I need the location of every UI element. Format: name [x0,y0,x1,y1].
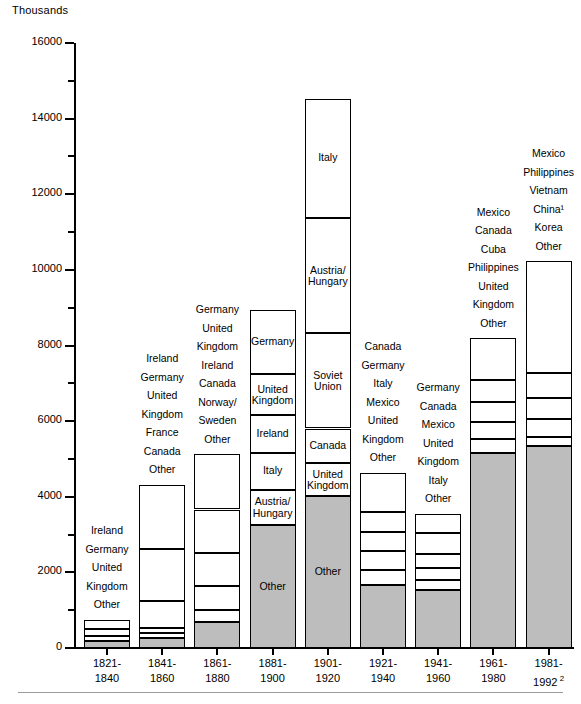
stacked-bar[interactable] [139,485,185,648]
bar-segment[interactable] [470,422,516,439]
bar-outside-label: Italy [402,471,474,490]
x-tick [106,649,108,655]
bar-segment[interactable] [470,453,516,648]
bar-segment[interactable]: Other [250,525,296,648]
x-tick [382,649,384,655]
bar-segment[interactable]: Italy [305,99,351,218]
y-tick-label: 4000 [8,490,62,501]
y-tick-major [65,647,74,649]
bar-outside-label-group: MexicoPhilippinesVietnamChina¹KoreaOther [513,144,581,255]
bar-segment[interactable]: Germany [250,310,296,374]
bar-segment[interactable] [470,380,516,402]
bar-segment[interactable] [415,533,461,554]
bar-segment-label: Germany [251,336,295,348]
stacked-bar[interactable] [470,338,516,648]
bar-segment-label: Austria/ Hungary [251,496,295,519]
bar-segment[interactable] [139,485,185,549]
bar-segment[interactable] [526,373,572,398]
bar-segment[interactable] [139,549,185,601]
bar-segment[interactable] [470,439,516,452]
bar-segment[interactable] [139,633,185,638]
x-category-label: 1941-1960 [411,656,466,686]
bar-outside-label: United Kingdom [402,434,474,471]
x-category-label: 1921-1940 [355,656,410,686]
bar-segment[interactable] [415,580,461,589]
bar-segment[interactable] [526,419,572,437]
stacked-bar[interactable] [526,261,572,648]
bar-segment[interactable] [84,636,130,642]
bar-outside-label: Other [513,237,581,256]
bar-segment[interactable] [360,473,406,512]
bar-outside-label: Mexico [402,415,474,434]
bar-segment-label: Italy [306,152,350,164]
y-tick-label: 14000 [8,112,62,123]
bar-outside-label: Philippines [513,163,581,182]
bar-segment[interactable] [415,568,461,581]
bar-segment[interactable]: Ireland [250,415,296,453]
y-tick-major [65,42,74,44]
bar-segment[interactable]: Austria/ Hungary [305,218,351,333]
bar-segment[interactable] [194,553,240,586]
y-tick-major [65,193,74,195]
bar-outside-label: Ireland [71,521,143,540]
bar-segment[interactable] [194,586,240,610]
y-tick-label: 10000 [8,263,62,274]
bar-segment[interactable] [194,454,240,509]
bar-segment[interactable] [526,446,572,648]
bar-segment[interactable] [84,620,130,630]
y-tick-label: 0 [8,641,62,652]
bar-segment[interactable] [360,532,406,552]
bar-segment[interactable] [139,638,185,648]
x-category-label: 1981-1992 2 [521,656,576,690]
y-tick-major [65,269,74,271]
bar-outside-label-group: IrelandGermanyUnited KingdomOther [71,521,143,614]
bar-segment[interactable] [470,402,516,422]
x-tick [437,649,439,655]
bar-outside-label: Other [457,314,529,333]
bar-segment-label: Ireland [251,429,295,441]
bar-segment[interactable] [360,551,406,569]
bar-segment[interactable] [84,629,130,635]
bar-segment[interactable] [84,641,130,648]
bar-segment[interactable] [194,622,240,648]
bar-segment[interactable]: Soviet Union [305,333,351,428]
stacked-bar[interactable] [194,454,240,648]
bar-segment[interactable] [470,338,516,379]
bar-segment-label: United Kingdom [306,468,350,491]
bar-segment[interactable] [139,628,185,634]
bar-outside-label: Mexico [513,144,581,163]
bar-outside-label: United Kingdom [181,319,253,356]
bar-segment[interactable] [194,610,240,622]
bar-segment[interactable] [194,510,240,554]
stacked-bar[interactable] [360,473,406,648]
bar-outside-label: Vietnam [513,181,581,200]
bar-segment[interactable] [526,261,572,373]
bar-segment[interactable]: Austria/ Hungary [250,490,296,526]
stacked-bar[interactable] [84,620,130,648]
bar-segment[interactable]: United Kingdom [305,463,351,496]
bar-segment[interactable] [360,585,406,648]
bar-segment[interactable]: Other [305,496,351,648]
stacked-bar[interactable]: OtherUnited KingdomCanadaSoviet UnionAus… [305,99,351,648]
bar-segment[interactable] [360,512,406,532]
bar-segment[interactable] [415,554,461,568]
bar-segment-label: Other [306,566,350,578]
y-tick-major [65,118,74,120]
bar-segment[interactable] [360,570,406,585]
bar-segment[interactable] [415,590,461,648]
stacked-bar[interactable]: OtherAustria/ HungaryItalyIrelandUnited … [250,310,296,648]
bar-segment[interactable]: Italy [250,453,296,489]
bar-segment[interactable]: Canada [305,429,351,464]
y-tick-label: 12000 [8,187,62,198]
bar-segment[interactable]: United Kingdom [250,374,296,415]
stacked-bar[interactable] [415,514,461,648]
bar-segment[interactable] [415,514,461,534]
bar-segment[interactable] [139,601,185,627]
bar-outside-label-group: GermanyCanadaMexicoUnited KingdomItalyOt… [402,378,474,508]
x-tick [548,649,550,655]
bar-segment[interactable] [526,398,572,418]
bar-segment[interactable] [526,437,572,447]
x-tick [327,649,329,655]
bar-outside-label: China¹ [513,200,581,219]
bar-outside-label: Other [402,489,474,508]
